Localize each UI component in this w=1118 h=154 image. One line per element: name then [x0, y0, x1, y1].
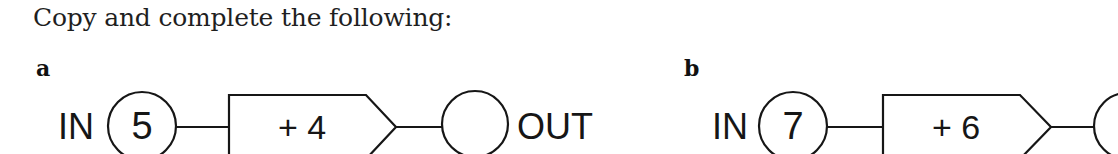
function-machine-a: IN 5 + 4 OUT [58, 91, 593, 154]
input-value-a: 5 [131, 105, 152, 147]
in-label-b: IN [712, 106, 748, 147]
input-value-b: 7 [782, 105, 803, 147]
output-circle-b[interactable] [1094, 93, 1118, 154]
function-machine-diagrams: IN 5 + 4 OUT IN 7 + 6 [0, 0, 1118, 154]
output-circle-a[interactable] [442, 91, 508, 154]
operation-b: + 6 [932, 108, 980, 146]
function-machine-b: IN 7 + 6 [712, 92, 1118, 154]
operation-a: + 4 [278, 108, 326, 146]
out-label-a: OUT [517, 106, 593, 147]
in-label-a: IN [58, 106, 94, 147]
